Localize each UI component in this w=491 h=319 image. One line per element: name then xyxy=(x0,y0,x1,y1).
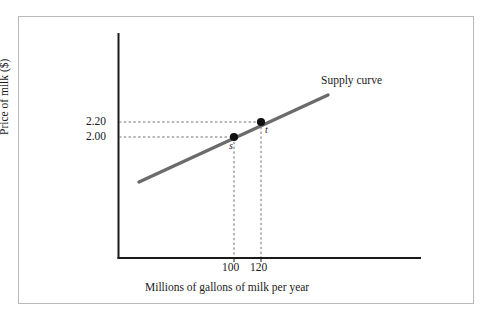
x-axis-title: Millions of gallons of milk per year xyxy=(145,282,309,294)
data-point-label-s: s xyxy=(229,141,233,151)
x-axis-tick-label-120: 120 xyxy=(250,262,267,274)
chart-plot-area xyxy=(0,0,491,319)
x-axis-tick-label-100: 100 xyxy=(222,262,239,274)
y-axis-tick-label-220: 2.20 xyxy=(66,116,106,128)
y-axis-title: Price of milk ($) xyxy=(0,59,11,135)
y-axis-tick-label-200: 2.00 xyxy=(66,131,106,143)
data-point-label-t: t xyxy=(265,125,268,135)
supply-curve-label: Supply curve xyxy=(321,75,382,87)
chart-figure: 2.20 2.00 100 120 Millions of gallons of… xyxy=(0,0,491,319)
data-point-t xyxy=(257,118,265,126)
